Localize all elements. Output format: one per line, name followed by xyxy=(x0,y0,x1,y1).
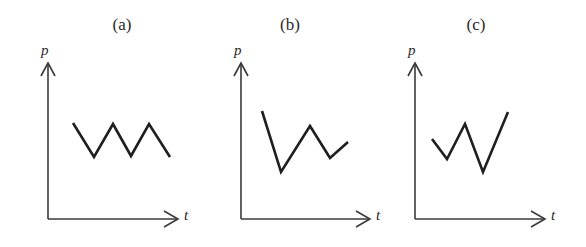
p-axis-label-b: p xyxy=(234,42,242,59)
panel-caption-a: (a) xyxy=(113,15,132,35)
price-series-line-c xyxy=(432,112,508,172)
t-axis-label-c: t xyxy=(551,207,555,224)
p-axis-label-c: p xyxy=(408,42,416,59)
figure-vector-layer xyxy=(0,0,586,247)
panel-c xyxy=(408,63,545,227)
p-axis-label-a: p xyxy=(41,42,49,59)
price-series-line-b xyxy=(262,111,348,172)
panel-a xyxy=(41,63,178,227)
t-axis-label-a: t xyxy=(184,207,188,224)
price-series-line-a xyxy=(73,123,170,157)
panel-caption-c: (c) xyxy=(467,15,486,35)
panel-caption-b: (b) xyxy=(280,15,300,35)
panel-b xyxy=(234,63,370,227)
t-axis-label-b: t xyxy=(376,207,380,224)
figure-canvas: (a)pt(b)pt(c)pt xyxy=(0,0,586,247)
